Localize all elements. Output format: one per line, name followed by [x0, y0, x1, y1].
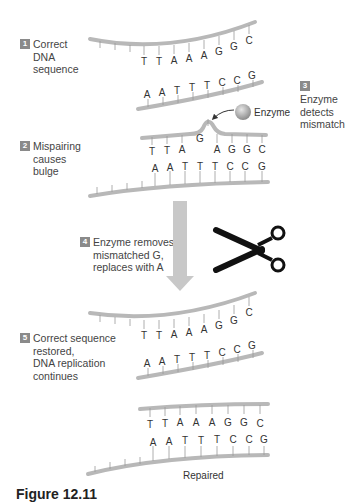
p1-top-base-6: G — [215, 46, 223, 57]
enzyme-pointer-arrow-icon — [214, 110, 234, 118]
p2-bot-base-2: A — [167, 162, 174, 173]
p2-bot-base-1: A — [152, 163, 159, 174]
p4-bot-base-4: T — [198, 435, 204, 446]
p2-top-base-6: G — [228, 144, 236, 155]
p3-top-base-1: T — [141, 330, 147, 341]
p2-top-base-5: A — [214, 144, 221, 155]
p3-top-base-4: A — [186, 327, 193, 338]
p4-top-base-7: G — [240, 417, 248, 428]
p4-top-base-6: G — [224, 417, 232, 428]
p1-bot-base-2: A — [159, 87, 166, 98]
p3-bot-base-4: T — [189, 352, 195, 363]
p2-top-base-1: T — [149, 146, 155, 157]
p4-top-base-4: A — [193, 417, 200, 428]
p3-bot-base-2: A — [159, 356, 166, 367]
p1-bot-base-6: C — [218, 77, 225, 88]
p1-bot-base-1: A — [144, 89, 151, 100]
p2-bot-base-3: T — [182, 161, 188, 172]
p3-top-base-7: G — [230, 315, 238, 326]
p4-top-base-1: T — [147, 419, 153, 430]
p3-bot-base-6: C — [218, 347, 225, 358]
panel3-top-backbone — [90, 293, 255, 316]
p4-bot-base-5: T — [214, 434, 220, 445]
p2-top-base-2: T — [164, 145, 170, 156]
p4-bot-base-6: C — [229, 434, 236, 445]
figure-caption: Figure 12.11 — [16, 486, 97, 502]
p1-top-base-1: T — [141, 56, 147, 67]
p2-mismatch-base: G — [196, 133, 204, 144]
p1-top-base-3: A — [171, 55, 178, 66]
p1-bot-base-3: T — [174, 85, 180, 96]
p4-top-base-8: C — [256, 418, 263, 429]
p3-bot-base-3: T — [174, 354, 180, 365]
enzyme-label: Enzyme — [254, 107, 291, 118]
p2-top-base-8: C — [258, 144, 265, 155]
p2-top-base-3: A — [179, 144, 186, 155]
p1-bot-base-4: T — [189, 82, 195, 93]
p2-bot-base-7: C — [241, 161, 248, 172]
enzyme-sphere-icon — [235, 104, 251, 120]
panel4-bottom-backbone — [88, 455, 268, 474]
p1-top-base-5: A — [201, 50, 208, 61]
panel3-bottom-backbone — [138, 353, 262, 378]
repaired-label: Repaired — [183, 470, 224, 481]
p3-top-base-8: C — [245, 307, 252, 318]
p3-bot-base-1: A — [144, 358, 151, 369]
p3-top-base-3: A — [171, 329, 178, 340]
panel2-bottom-backbone — [90, 182, 268, 196]
p4-top-base-3: A — [177, 417, 184, 428]
p1-top-base-2: T — [156, 56, 162, 67]
p4-bot-base-7: C — [245, 434, 252, 445]
p1-bot-base-8: G — [248, 70, 256, 81]
p3-top-base-2: T — [156, 330, 162, 341]
p1-top-base-7: G — [230, 41, 238, 52]
scissors-icon — [216, 227, 284, 271]
p3-bot-base-5: T — [204, 350, 210, 361]
p4-top-base-2: T — [162, 418, 168, 429]
p3-top-base-5: A — [201, 324, 208, 335]
p2-bot-base-8: G — [258, 161, 266, 172]
p4-bot-base-2: A — [166, 436, 173, 447]
p4-top-base-5: A — [209, 417, 216, 428]
p1-top-base-8: C — [245, 35, 252, 46]
p2-top-base-7: G — [243, 144, 251, 155]
p2-bot-base-5: T — [212, 161, 218, 172]
p1-bot-base-5: T — [204, 80, 210, 91]
p4-bot-base-1: A — [150, 437, 157, 448]
p4-bot-base-8: G — [260, 434, 268, 445]
p3-bot-base-8: G — [248, 340, 256, 351]
p4-bot-base-3: T — [182, 435, 188, 446]
p2-bot-base-4: T — [197, 161, 203, 172]
p1-top-base-4: A — [186, 53, 193, 64]
down-arrow-icon — [166, 201, 194, 291]
p1-bot-base-7: C — [233, 75, 240, 86]
p2-bot-base-6: C — [226, 161, 233, 172]
p3-top-base-6: G — [215, 320, 223, 331]
p3-bot-base-7: C — [233, 344, 240, 355]
panel4-top-backbone — [140, 404, 268, 409]
